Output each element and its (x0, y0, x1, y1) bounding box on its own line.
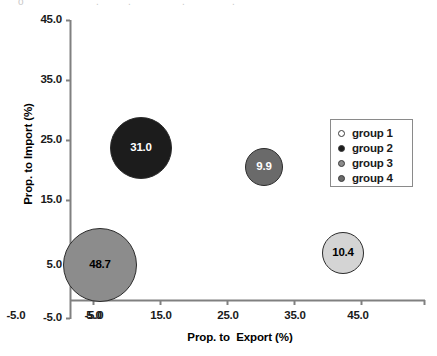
x-tick-label-35: 35.0 (267, 309, 323, 321)
x-tick-label-15: 15.0 (133, 309, 189, 321)
bubble-label: 10.4 (332, 247, 354, 259)
x-tick-label-45: 45.0 (330, 309, 386, 321)
bubble-point[interactable]: 9.9 (245, 148, 283, 186)
bubble-point[interactable]: 48.7 (63, 228, 137, 302)
legend-label: group 3 (352, 157, 393, 169)
y-tick-label-45: 45.0 (10, 13, 62, 25)
legend-marker-icon (338, 145, 345, 152)
x-tick-label-leftmost: -5.0 (0, 309, 44, 321)
legend-item-group-4[interactable]: group 4 (338, 171, 403, 185)
legend-item-group-1[interactable]: group 1 (338, 126, 403, 140)
bubble-point[interactable]: 31.0 (110, 117, 172, 179)
legend-item-group-3[interactable]: group 3 (338, 156, 403, 170)
legend-label: group 4 (352, 172, 393, 184)
x-tick-label-5: 5.0 (66, 309, 122, 321)
bubble-chart: o . . . . (0, 0, 437, 356)
x-tick-label-25: 25.0 (200, 309, 256, 321)
x-axis-title: Prop. to Export (%) (150, 331, 330, 343)
legend-label: group 1 (352, 127, 393, 139)
y-tick-label-5: 5.0 (10, 258, 62, 270)
legend-marker-icon (338, 130, 345, 137)
bubble-label: 9.9 (256, 161, 271, 173)
y-tick-label-35: 35.0 (10, 73, 62, 85)
legend-marker-icon (338, 160, 345, 167)
y-axis-title: Prop. to Import (%) (22, 64, 34, 244)
bubble-label: 48.7 (89, 259, 111, 271)
bubble-point[interactable]: 10.4 (322, 232, 364, 274)
legend-marker-icon (338, 175, 345, 182)
legend-label: group 2 (352, 142, 393, 154)
bubble-label: 31.0 (130, 142, 152, 154)
y-axis-ticks (66, 21, 70, 266)
y-tick-label-25: 25.0 (10, 133, 62, 145)
chart-legend: group 1 group 2 group 3 group 4 (330, 119, 413, 187)
y-tick-label-15: 15.0 (10, 193, 62, 205)
legend-item-group-2[interactable]: group 2 (338, 141, 403, 155)
